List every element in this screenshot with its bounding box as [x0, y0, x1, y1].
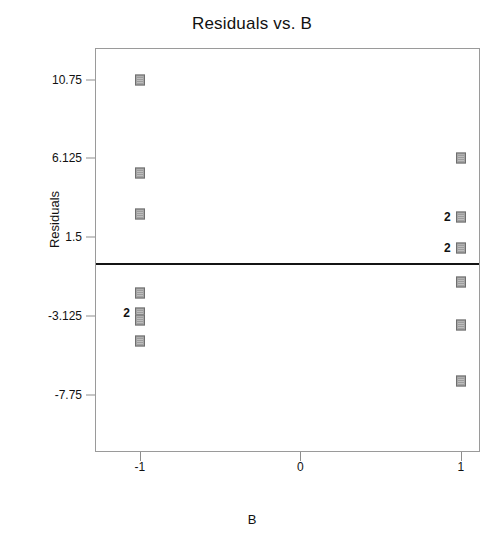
- data-point-marker: [456, 375, 466, 386]
- y-axis-title: Residuals: [47, 160, 62, 280]
- y-axis-tick-mark: [86, 158, 95, 159]
- y-axis-tick-label: 1.5: [6, 230, 82, 244]
- data-point-marker: [456, 320, 466, 331]
- data-point-marker: [135, 209, 145, 220]
- data-point-marker: [135, 336, 145, 347]
- data-point-marker: [456, 243, 466, 254]
- y-axis-tick-mark: [86, 79, 95, 80]
- y-axis-tick-label: 10.75: [6, 73, 82, 87]
- point-count-label: 2: [444, 241, 454, 255]
- y-axis-tick-label: -7.75: [6, 388, 82, 402]
- plot-area: [95, 48, 480, 452]
- data-point-marker: [456, 211, 466, 222]
- y-axis-tick-label: -3.125: [6, 309, 82, 323]
- x-axis-tick-label: 1: [431, 460, 491, 474]
- data-point-marker: [135, 315, 145, 326]
- data-point-marker: [456, 153, 466, 164]
- chart-title: Residuals vs. B: [0, 14, 504, 34]
- chart-canvas: Residuals vs. B Residuals B 10.756.1251.…: [0, 0, 504, 548]
- point-count-label: 2: [123, 306, 133, 320]
- y-axis-tick-mark: [86, 316, 95, 317]
- y-axis-tick-mark: [86, 394, 95, 395]
- data-point-marker: [135, 288, 145, 299]
- x-axis-tick-label: 0: [270, 460, 330, 474]
- data-point-marker: [135, 168, 145, 179]
- point-count-label: 2: [444, 210, 454, 224]
- x-axis-title: B: [0, 512, 504, 527]
- y-axis-tick-mark: [86, 237, 95, 238]
- y-axis-tick-label: 6.125: [6, 151, 82, 165]
- data-point-marker: [456, 276, 466, 287]
- zero-reference-line: [96, 263, 479, 265]
- x-axis-tick-label: -1: [110, 460, 170, 474]
- data-point-marker: [135, 74, 145, 85]
